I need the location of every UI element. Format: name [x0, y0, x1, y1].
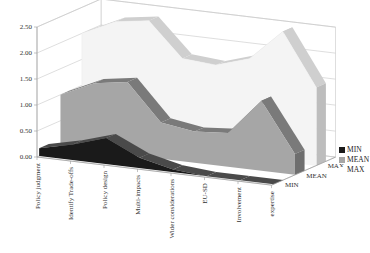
y-tick-label: 2.00	[20, 49, 33, 57]
y-tick-label: 0.00	[20, 153, 33, 161]
legend-item-mean: MEAN	[339, 155, 369, 165]
legend-item-max: MAX	[339, 165, 369, 175]
x-tick-label: Policy design	[101, 171, 109, 209]
legend-label-max: MAX	[347, 165, 365, 175]
y-tick-label: 2.50	[20, 23, 33, 31]
x-tick-label: Involvement	[235, 187, 243, 222]
x-tick-label: Identify Trade-offs	[67, 167, 75, 220]
y-axis-ticks: 0.000.501.001.502.002.50	[20, 23, 37, 161]
depth-label-mean: MEAN	[306, 172, 327, 180]
y-tick-label: 0.50	[20, 127, 33, 135]
y-tick-label: 1.00	[20, 101, 33, 109]
x-tick-label: EU-SD	[201, 183, 209, 204]
x-tick-label: Policy judgment	[34, 163, 42, 209]
x-tick-label: expertise	[268, 191, 276, 216]
legend-swatch-min	[339, 147, 345, 153]
legend-label-mean: MEAN	[347, 155, 369, 165]
depth-label-min: MIN	[285, 181, 299, 189]
legend: MIN MEAN MAX	[339, 145, 369, 175]
legend-label-min: MIN	[347, 145, 362, 155]
x-tick-label: Wider considerations	[168, 179, 176, 239]
legend-swatch-max	[339, 167, 345, 173]
x-tick-label: Multi-impacts	[134, 175, 142, 215]
y-tick-label: 1.50	[20, 75, 33, 83]
legend-swatch-mean	[339, 157, 345, 163]
legend-item-min: MIN	[339, 145, 369, 155]
area-chart-3d: 0.000.501.001.502.002.50 Policy judgment…	[0, 0, 370, 253]
